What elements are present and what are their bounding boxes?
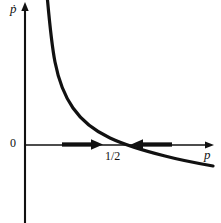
- y-axis-label: ṗ: [10, 2, 17, 15]
- flow-arrow-right: [62, 139, 103, 149]
- plot-canvas: [0, 0, 221, 223]
- phase-plot-figure: ṗ p 0 1/2: [0, 0, 221, 223]
- x-axis-label: p: [204, 148, 211, 161]
- origin-tick-label: 0: [10, 137, 16, 149]
- fixed-point-label: 1/2: [105, 150, 120, 162]
- y-axis-arrowhead: [21, 2, 28, 11]
- phase-curve: [48, 0, 214, 166]
